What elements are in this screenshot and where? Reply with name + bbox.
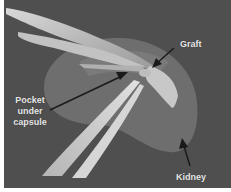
graft-core — [139, 69, 151, 77]
pocket-label-line3: capsule — [6, 117, 54, 128]
pocket-under-capsule-label: Pocket under capsule — [6, 95, 54, 128]
pocket-label-line2: under — [6, 106, 54, 117]
kidney-graft-illustration — [4, 0, 231, 188]
graft-label: Graft — [180, 39, 202, 50]
pocket-label-line1: Pocket — [6, 95, 54, 106]
diagram-frame: Graft Pocket under capsule Kidney — [4, 0, 231, 188]
kidney-label: Kidney — [176, 172, 206, 183]
